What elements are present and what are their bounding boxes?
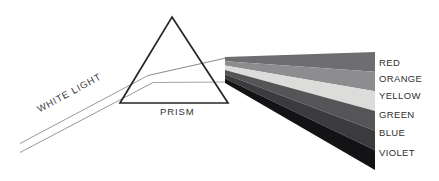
internal-refracted-rays [124, 17, 226, 99]
white-light-ray-lower [20, 83, 153, 153]
spectrum-label-blue: BLUE [379, 128, 405, 138]
prism-triangle [120, 17, 228, 103]
spectrum-label-red: RED [379, 58, 400, 68]
spectrum-fan [225, 52, 375, 170]
prism-label: PRISM [160, 107, 195, 117]
prism-dispersion-figure: PRISM WHITE LIGHT RED ORANGE YELLOW GREE… [0, 0, 439, 181]
spectrum-label-yellow: YELLOW [379, 91, 421, 101]
spectrum-label-green: GREEN [379, 110, 415, 120]
spectrum-label-orange: ORANGE [379, 74, 422, 84]
internal-ray-upper [148, 58, 226, 76]
spectrum-label-violet: VIOLET [379, 148, 415, 158]
